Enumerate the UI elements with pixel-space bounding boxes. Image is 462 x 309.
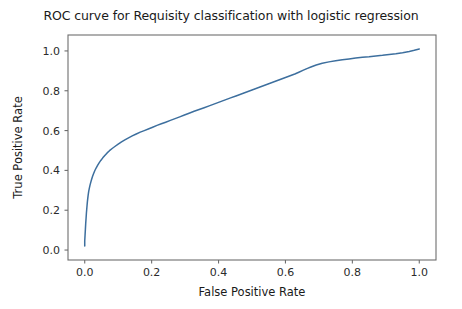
y-tick-label: 0.8 <box>43 85 61 98</box>
y-tick-label: 0.4 <box>43 164 61 177</box>
x-tick-label: 0.8 <box>344 266 362 279</box>
plot-frame <box>68 35 436 260</box>
roc-chart-figure: ROC curve for Requisity classification w… <box>0 0 462 309</box>
x-tick-label: 0.0 <box>76 266 94 279</box>
y-tick-label: 1.0 <box>43 45 61 58</box>
y-tick-label: 0.6 <box>43 125 61 138</box>
roc-plot-area: 0.00.20.40.60.81.00.00.20.40.60.81.0Fals… <box>0 0 462 309</box>
y-axis-title: True Positive Rate <box>11 96 25 199</box>
x-tick-label: 0.2 <box>143 266 161 279</box>
x-axis-title: False Positive Rate <box>199 285 306 299</box>
x-tick-label: 0.6 <box>277 266 295 279</box>
y-tick-label: 0.0 <box>43 244 61 257</box>
roc-curve-line <box>85 49 420 246</box>
y-tick-label: 0.2 <box>43 204 61 217</box>
x-tick-label: 1.0 <box>411 266 429 279</box>
x-tick-label: 0.4 <box>210 266 228 279</box>
